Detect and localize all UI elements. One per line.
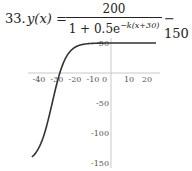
x-tick-label: 20 [142, 75, 152, 84]
x-tick-label: -10 [87, 75, 100, 84]
function-curve [32, 43, 156, 157]
x-tick-label: 0 [102, 75, 107, 84]
y-tick-label: -50 [96, 99, 109, 108]
y-tick-label: -100 [91, 129, 109, 138]
x-tick-labels: -40-30-20-1001020 [33, 75, 153, 84]
y-tick-label: -150 [91, 159, 109, 168]
x-tick-label: -20 [69, 75, 82, 84]
y-tick-labels: 50-50-100-150 [91, 39, 109, 168]
plot-area: -40-30-20-1001020 50-50-100-150 [0, 0, 192, 171]
x-tick-label: 10 [124, 75, 134, 84]
x-tick-label: -40 [33, 75, 46, 84]
